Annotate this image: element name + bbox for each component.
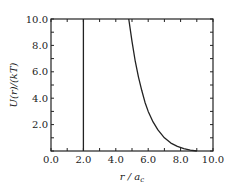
chart-canvas: 0.02.04.06.08.010.0 2.04.06.08.010.0 r /…	[0, 0, 233, 187]
x-tick-label: 6.0	[140, 154, 156, 165]
x-tick-label: 8.0	[173, 154, 189, 165]
y-tick-label: 6.0	[32, 66, 48, 77]
y-tick-label: 4.0	[32, 93, 48, 104]
potential-chart: 0.02.04.06.08.010.0 2.04.06.08.010.0 r /…	[0, 0, 233, 187]
x-axis-label-subscript: c	[140, 176, 144, 184]
x-tick-label: 2.0	[75, 154, 91, 165]
x-axis-label: r / ac	[120, 171, 144, 184]
x-tick-label: 10.0	[202, 154, 224, 165]
x-tick-labels: 0.02.04.06.08.010.0	[43, 154, 224, 165]
y-tick-labels: 2.04.06.08.010.0	[26, 14, 48, 131]
data-series	[83, 19, 196, 151]
y-tick-label: 10.0	[26, 14, 48, 25]
x-tick-label: 0.0	[43, 154, 59, 165]
potential-curve	[129, 19, 197, 151]
y-axis-label: U(r)/(kT)	[8, 62, 19, 107]
y-tick-label: 2.0	[32, 119, 48, 130]
x-tick-label: 4.0	[108, 154, 124, 165]
y-tick-label: 8.0	[32, 40, 48, 51]
